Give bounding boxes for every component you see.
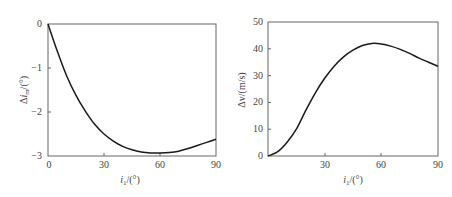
left-y-tick-label: −1 — [31, 62, 42, 73]
left-x-tick-label: 0 — [47, 159, 52, 170]
right-y-tick-label: 10 — [253, 123, 263, 134]
right-y-axis-label: Δv/(m/s) — [236, 72, 248, 107]
right-plot-frame — [268, 22, 438, 156]
left-curve — [48, 24, 216, 153]
left-y-tick-label: 0 — [37, 18, 42, 29]
right-curve — [268, 43, 438, 156]
left-x-axis-label: i1/(°) — [120, 174, 140, 187]
right-chart: 0 10 20 30 40 50 30 60 90 Δv/(m/s) i1/(°… — [236, 16, 443, 187]
left-y-tick-label: −2 — [31, 106, 42, 117]
figure: 0 −1 −2 −3 0 30 60 90 Δim/(°) i1/(°) 0 1… — [0, 0, 452, 197]
left-y-tick-label: −3 — [31, 150, 42, 161]
left-x-tick-label: 30 — [99, 159, 109, 170]
right-x-tick-label: 30 — [320, 159, 330, 170]
right-y-tick-label: 50 — [253, 16, 263, 27]
left-y-axis-label: Δim/(°) — [18, 76, 31, 104]
right-y-tick-label: 20 — [253, 96, 263, 107]
left-x-tick-label: 60 — [155, 159, 165, 170]
left-chart: 0 −1 −2 −3 0 30 60 90 Δim/(°) i1/(°) — [18, 18, 221, 187]
right-x-tick-label: 60 — [376, 159, 386, 170]
right-x-tick-label: 90 — [433, 159, 443, 170]
right-y-tick-label: 0 — [258, 150, 263, 161]
right-x-axis-label: i1/(°) — [343, 174, 363, 187]
right-y-tick-label: 30 — [253, 70, 263, 81]
left-x-tick-label: 90 — [211, 159, 221, 170]
right-y-tick-label: 40 — [253, 43, 263, 54]
